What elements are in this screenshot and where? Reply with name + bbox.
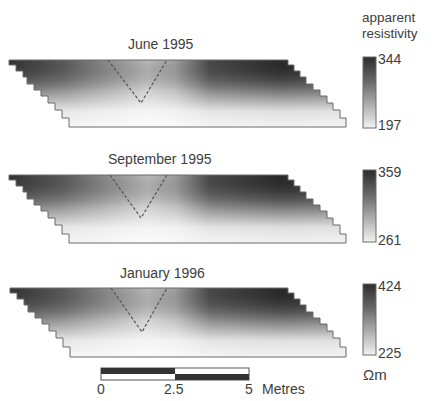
scale-unit: Metres xyxy=(262,381,305,397)
legend-heading-line2: resistivity xyxy=(362,26,418,42)
scale-tick-0: 0 xyxy=(97,381,105,397)
unit-label: Ωm xyxy=(363,366,387,383)
colorbar-min-september: 261 xyxy=(378,232,401,248)
pseudosection-september-1995 xyxy=(0,175,350,245)
panel-title-january-1996: January 1996 xyxy=(120,265,205,281)
colorbar-max-june: 344 xyxy=(378,51,401,67)
colorbar-january-1996 xyxy=(363,284,376,355)
legend-heading: apparent resistivity xyxy=(362,10,418,42)
panel-title-september-1995: September 1995 xyxy=(108,151,212,167)
colorbar-min-june: 197 xyxy=(378,117,401,133)
colorbar-min-january: 225 xyxy=(378,345,401,361)
scale-tick-2-5: 2.5 xyxy=(164,381,183,397)
colorbar-september-1995 xyxy=(363,170,376,242)
pseudosection-january-1996 xyxy=(0,288,350,358)
colorbar-june-1995 xyxy=(363,57,376,128)
pseudosection-june-1995 xyxy=(0,60,350,128)
legend-heading-line1: apparent xyxy=(362,10,418,26)
scale-tick-5: 5 xyxy=(245,381,253,397)
panel-title-june-1995: June 1995 xyxy=(128,36,193,52)
colorbar-max-september: 359 xyxy=(378,164,401,180)
pseudosection-figure xyxy=(0,0,438,401)
colorbar-max-january: 424 xyxy=(378,278,401,294)
scale-bar xyxy=(101,368,249,380)
